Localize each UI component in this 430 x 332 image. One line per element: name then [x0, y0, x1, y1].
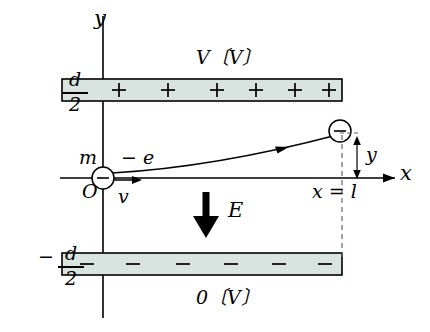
particle-mass-label: m: [79, 148, 97, 167]
field-arrowhead: [193, 216, 219, 238]
field-label: E: [228, 200, 243, 221]
deflection-label: y: [366, 145, 377, 164]
initial-velocity-label: v: [118, 187, 129, 206]
plate-length-label: x = l: [312, 182, 357, 201]
trajectory-arrowhead: [275, 147, 289, 154]
particle-charge-label: − e: [121, 148, 154, 167]
top-plate-voltage-label: V〔V〕: [196, 48, 261, 67]
bottom-plate-position-fraction: d 2: [58, 244, 84, 289]
origin-label: O: [82, 182, 98, 201]
deflection-arrowhead-top: [353, 136, 361, 145]
axis-y-label: y: [94, 8, 106, 29]
x-axis-arrowhead: [383, 174, 395, 183]
bottom-plate-voltage-label: 0〔V〕: [196, 288, 260, 307]
bottom-plate: [62, 253, 342, 275]
physics-diagram: y x O V〔V〕 0〔V〕 d 2 − d 2 m − e v E y x …: [0, 0, 430, 332]
bottom-plate-position-denominator: 2: [58, 269, 84, 289]
top-plate-position-numerator: d: [62, 70, 88, 90]
top-plate-position-denominator: 2: [62, 95, 88, 115]
bottom-plate-position-numerator: d: [58, 244, 84, 264]
top-plate-position-fraction: d 2: [62, 70, 88, 115]
axis-x-label: x: [400, 163, 412, 184]
bottom-plate-position-minus: −: [38, 245, 54, 267]
